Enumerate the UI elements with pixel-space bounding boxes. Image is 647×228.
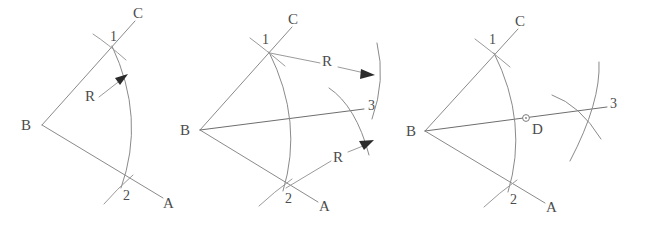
panel-1-geometry: [42, 21, 163, 204]
panel-2-geometry: [200, 27, 381, 206]
radius-leader-2-lower: [286, 161, 331, 188]
panel-3-geometry: [425, 29, 607, 207]
main-arc-2: [269, 52, 291, 191]
bisector-line-3: [425, 107, 607, 131]
arc-from-2-3: [552, 95, 601, 139]
radius-leader-2-upper: [270, 53, 320, 63]
panel-1-label-point-1: 1: [110, 30, 117, 44]
panel-1-label-ray-c: C: [133, 6, 143, 21]
panel-3-label-point-1: 1: [489, 33, 496, 47]
panel-1-label-point-2: 2: [123, 189, 130, 203]
radius-arrowhead-2-upper: [360, 69, 375, 79]
panel-2-label-ray-c: C: [288, 12, 298, 27]
panel-3-label-ray-c: C: [515, 14, 525, 29]
bisector-line-2: [200, 109, 364, 130]
panel-2-label-vertex-b: B: [180, 123, 190, 138]
panel-2-label-radius-upper: R: [322, 54, 332, 69]
ray-ba-line-3: [425, 131, 545, 203]
ray-bc-line-3: [425, 29, 518, 131]
panel-1-label-vertex-b: B: [21, 118, 31, 133]
panel-2-label-ray-a: A: [319, 199, 330, 214]
panel-2-label-point-2: 2: [285, 192, 292, 206]
ray-bc-line-1: [42, 21, 135, 125]
main-arc-1: [112, 46, 132, 188]
ray-bc-line-2: [200, 27, 292, 130]
panel-3-label-vertex-b: B: [406, 124, 416, 139]
panel-3-label-ray-a: A: [546, 200, 557, 215]
point-d-dot: [525, 117, 527, 119]
panel-3-label-point-2: 2: [510, 193, 517, 207]
ray-ba-line-1: [42, 125, 163, 198]
panel-1-label-ray-a: A: [163, 196, 174, 211]
ray-ba-line-2: [200, 130, 318, 202]
panel-2-label-point-1: 1: [262, 33, 269, 47]
radius-arrowhead-2-lower: [359, 140, 374, 150]
figure-canvas: [0, 0, 647, 228]
panel-3-label-point-3: 3: [610, 97, 617, 111]
panel-3-label-point-d: D: [532, 122, 543, 137]
panel-1-label-radius-r: R: [85, 89, 95, 104]
angle-bisector-figure: B C A 1 2 R B C A 1 2 3 R R B C A 1 2 3 …: [0, 0, 647, 228]
panel-2-label-radius-lower: R: [333, 150, 343, 165]
panel-2-label-point-3: 3: [368, 99, 375, 113]
main-arc-3: [494, 53, 516, 192]
